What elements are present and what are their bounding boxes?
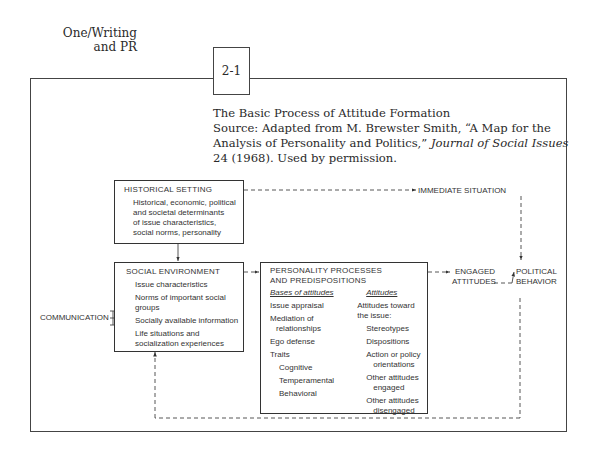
attitudes-header: Attitudes bbox=[357, 288, 427, 298]
social-item: Norms of important socialgroups bbox=[135, 293, 243, 313]
attitude-item-text: engaged bbox=[366, 383, 427, 393]
social-item-text: groups bbox=[135, 303, 243, 313]
trait-item: Cognitive bbox=[270, 363, 357, 373]
engaged-attitudes-line: ENGAGED bbox=[452, 267, 496, 277]
trait-item: Temperamental bbox=[270, 376, 357, 386]
personality-box: PERSONALITY PROCESSES AND PREDISPOSITION… bbox=[260, 262, 428, 414]
political-behavior-label: POLITICAL BEHAVIOR bbox=[516, 267, 557, 287]
historical-line: and societal determinants bbox=[133, 208, 243, 218]
attitude-item: Dispositions bbox=[357, 337, 427, 347]
bases-item-text: Mediation of bbox=[270, 314, 357, 324]
attitudes-intro: Attitudes toward the issue: bbox=[357, 301, 427, 321]
bases-header: Bases of attitudes bbox=[270, 288, 357, 298]
bases-item-text: Traits bbox=[270, 350, 357, 360]
personality-title-line: AND PREDISPOSITIONS bbox=[270, 276, 427, 286]
attitude-item-text: Action or policy bbox=[366, 350, 427, 360]
personality-title: PERSONALITY PROCESSES AND PREDISPOSITION… bbox=[270, 266, 427, 286]
bases-item: Traits bbox=[270, 350, 357, 360]
historical-line: Historical, economic, political bbox=[133, 198, 243, 208]
bases-item-text: Ego defense bbox=[270, 337, 357, 347]
engaged-attitudes-line: ATTITUDES bbox=[452, 277, 496, 287]
social-item-text: Socially available information bbox=[135, 316, 243, 326]
attitude-item-text: Stereotypes bbox=[366, 324, 427, 334]
social-item-text: Norms of important social bbox=[135, 293, 243, 303]
attitudes-intro-text: Attitudes toward bbox=[357, 301, 427, 311]
communication-label: COMMUNICATION bbox=[40, 313, 109, 323]
attitude-item-text: Other attitudes bbox=[366, 396, 427, 406]
attitudes-intro-text: the issue: bbox=[357, 311, 427, 321]
bases-item: Mediation ofrelationships bbox=[270, 314, 357, 334]
historical-setting-description: Historical, economic, political and soci… bbox=[124, 198, 243, 238]
attitude-item-text: Other attitudes bbox=[366, 373, 427, 383]
social-environment-box: SOCIAL ENVIRONMENT Issue characteristics… bbox=[114, 262, 244, 352]
historical-setting-title: HISTORICAL SETTING bbox=[124, 185, 243, 195]
social-item-text: Issue characteristics bbox=[135, 280, 243, 290]
social-item-text: Life situations and bbox=[135, 329, 243, 339]
political-behavior-line: BEHAVIOR bbox=[516, 277, 557, 287]
social-item: Life situations andsocialization experie… bbox=[135, 329, 243, 349]
social-item: Socially available information bbox=[135, 316, 243, 326]
personality-title-line: PERSONALITY PROCESSES bbox=[270, 266, 427, 276]
engaged-attitudes-label: ENGAGED ATTITUDES bbox=[452, 267, 496, 287]
historical-setting-box: HISTORICAL SETTING Historical, economic,… bbox=[114, 180, 244, 244]
social-environment-title: SOCIAL ENVIRONMENT bbox=[126, 267, 243, 277]
bases-item: Issue appraisal bbox=[270, 301, 357, 311]
historical-line: of issue characteristics, bbox=[133, 218, 243, 228]
trait-item: Behavioral bbox=[270, 389, 357, 399]
bases-item-text: relationships bbox=[270, 324, 357, 334]
bases-column: Bases of attitudes Issue appraisal Media… bbox=[270, 288, 357, 416]
attitude-item: Other attitudesdisengaged bbox=[357, 396, 427, 416]
political-behavior-line: POLITICAL bbox=[516, 267, 557, 277]
attitude-item: Other attitudesengaged bbox=[357, 373, 427, 393]
historical-line: social norms, personality bbox=[133, 228, 243, 238]
attitude-item: Stereotypes bbox=[357, 324, 427, 334]
social-item-text: socialization experiences bbox=[135, 339, 243, 349]
immediate-situation-label: IMMEDIATE SITUATION bbox=[418, 186, 506, 196]
attitude-item: Action or policyorientations bbox=[357, 350, 427, 370]
attitude-item-text: Dispositions bbox=[366, 337, 427, 347]
attitudes-column: Attitudes Attitudes toward the issue: St… bbox=[357, 288, 427, 416]
bases-item: Ego defense bbox=[270, 337, 357, 347]
attitude-item-text: disengaged bbox=[366, 406, 427, 416]
social-item: Issue characteristics bbox=[135, 280, 243, 290]
attitude-item-text: orientations bbox=[366, 360, 427, 370]
bases-item-text: Issue appraisal bbox=[270, 301, 357, 311]
